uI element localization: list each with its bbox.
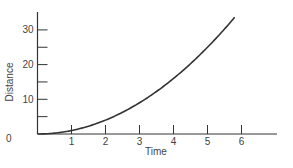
y-axis-label: Distance <box>4 62 15 101</box>
x-tick-label: 1 <box>69 136 75 147</box>
x-tick-label: 3 <box>137 136 143 147</box>
x-tick-label: 6 <box>239 136 245 147</box>
x-tick-label: 5 <box>205 136 211 147</box>
distance-curve <box>38 17 235 134</box>
x-tick-label: 4 <box>171 136 177 147</box>
y-tick-label: 10 <box>22 94 34 105</box>
x-tick-label: 2 <box>103 136 109 147</box>
y-tick-label: 20 <box>22 59 34 70</box>
distance-time-chart: 0102030 123456 Time Distance <box>0 0 293 168</box>
y-tick-label: 0 <box>6 133 12 144</box>
y-tick-label: 30 <box>22 24 34 35</box>
x-axis-label: Time <box>145 146 167 157</box>
x-ticks: 123456 <box>69 125 245 147</box>
